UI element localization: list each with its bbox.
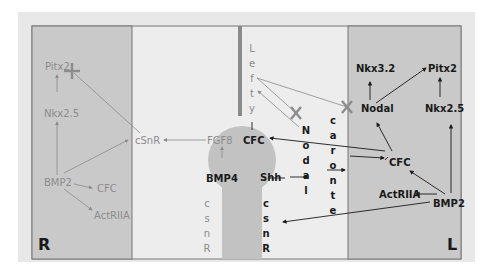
vertical-letter: t (331, 190, 336, 201)
shh-label: Shh (260, 172, 281, 183)
bmp4-label: BMP4 (206, 173, 238, 184)
diagram: Pitx2 Nkx2.5 BMP2 CFC ActRIIA cSnR R FGF… (0, 0, 492, 278)
fgf8-label: FGF8 (207, 135, 233, 146)
l-pitx2-label: Pitx2 (428, 63, 457, 74)
l-nkx25-label: Nkx2.5 (425, 103, 464, 114)
vertical-letter: n (329, 175, 336, 186)
r-pitx2-label: Pitx2 (45, 61, 70, 72)
vertical-letter: o (303, 140, 310, 151)
right-side-label: R (38, 235, 50, 254)
vertical-letter: c (263, 198, 269, 209)
vertical-letter: n (204, 228, 210, 239)
l-actriia-label: ActRIIA (379, 189, 421, 200)
l-nkx32-label: Nkx3.2 (356, 63, 395, 74)
vertical-letter: R (262, 243, 270, 254)
l-nodal-label: Nodal (361, 103, 394, 114)
vertical-letter: y (249, 103, 255, 114)
vertical-letter: c (330, 115, 336, 126)
midline-bar (238, 26, 242, 116)
l-bmp2-label: BMP2 (433, 198, 465, 209)
vertical-letter: a (330, 130, 337, 141)
l-cfc-label: CFC (389, 157, 411, 168)
r-bmp2-label: BMP2 (44, 177, 72, 188)
diagram-canvas: Pitx2 Nkx2.5 BMP2 CFC ActRIIA cSnR R FGF… (0, 0, 492, 278)
vertical-letter: s (204, 213, 209, 224)
r-actriia-label: ActRIIA (94, 210, 130, 221)
vertical-letter: e (330, 205, 337, 216)
vertical-letter: r (331, 145, 336, 156)
vertical-letter: e (249, 58, 255, 69)
vertical-letter: c (204, 198, 210, 209)
node-cfc-label: CFC (243, 135, 265, 146)
r-cfc-label: CFC (97, 183, 117, 194)
r-nkx25-label: Nkx2.5 (44, 108, 79, 119)
vertical-letter: N (302, 125, 310, 136)
vertical-letter: a (303, 170, 310, 181)
left-side-label: L (447, 235, 457, 254)
vertical-letter: f (250, 73, 254, 84)
vertical-letter: o (330, 160, 337, 171)
vertical-letter: L (249, 43, 255, 54)
vertical-letter: R (204, 243, 211, 254)
vertical-letter: n (262, 228, 269, 239)
vertical-letter: t (250, 88, 254, 99)
r-csnr-label: cSnR (135, 135, 160, 146)
vertical-letter: l (304, 185, 307, 196)
left-side-panel (348, 26, 461, 259)
vertical-letter: d (302, 155, 309, 166)
vertical-letter: s (263, 213, 269, 224)
